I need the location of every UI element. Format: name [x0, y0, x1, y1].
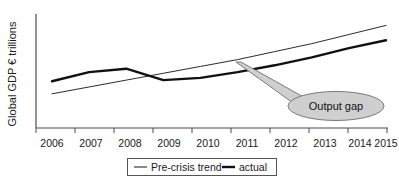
chart-legend: Pre-crisis trend actual — [128, 159, 277, 176]
x-tick-label: 2013 — [313, 137, 337, 149]
legend-label-pre-crisis-trend: Pre-crisis trend — [151, 161, 222, 173]
x-tick-label: 2011 — [236, 137, 259, 149]
x-tick-label: 2007 — [79, 137, 103, 149]
x-tick-label: 2014 — [348, 137, 372, 149]
series-line-pre-crisis-trend — [52, 25, 386, 93]
x-tick-label: 2015 — [374, 137, 398, 149]
callout-label: Output gap — [309, 100, 363, 112]
series-line-actual — [52, 40, 386, 81]
output-gap-callout: Output gap — [236, 62, 384, 121]
x-tick-label: 2009 — [157, 137, 181, 149]
x-axis-tick-labels: 2006 2007 2008 2009 2010 2011 2012 2013 … — [40, 137, 398, 149]
x-tick-label: 2010 — [196, 137, 220, 149]
x-tick-label: 2012 — [274, 137, 298, 149]
x-axis-ticks — [36, 128, 387, 133]
y-axis-label: Global GDP € trillions — [6, 21, 18, 126]
line-chart: Global GDP € trillions 2006 2007 2008 20… — [0, 0, 399, 183]
chart-container: Global GDP € trillions 2006 2007 2008 20… — [0, 0, 399, 183]
x-tick-label: 2006 — [40, 137, 64, 149]
x-tick-label: 2008 — [118, 137, 142, 149]
legend-label-actual: actual — [239, 161, 267, 173]
